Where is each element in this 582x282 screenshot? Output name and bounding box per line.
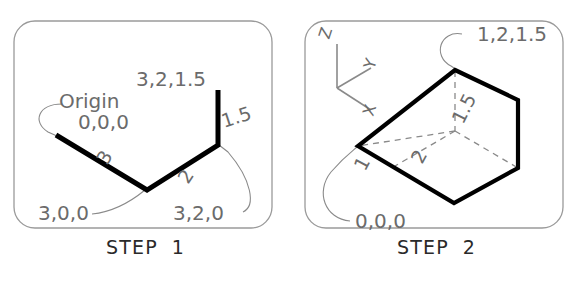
caption-step-1-word: STEP [106,236,158,258]
axis-label-y: Y [359,56,380,72]
construction-line-to-right [455,131,518,168]
label-origin-coord: 0,0,0 [78,110,129,134]
label-point-x: 3,0,0 [38,201,89,225]
panel-step-1: Origin 0,0,0 3,2,1.5 3,0,0 3,2,0 3 2 1.5… [0,0,291,282]
panel-border [305,21,563,228]
axis-label-x: X [359,102,380,118]
caption-step-1-number: 1 [172,236,185,258]
caption-step-2-word: STEP [397,236,449,258]
axis-triad: Z Y X [315,25,381,118]
label-point-xy: 3,2,0 [173,201,224,225]
label-point-xyz: 3,2,1.5 [136,67,206,91]
caption-step-2-number: 2 [463,236,476,258]
dimension-label-z: 1.5 [447,90,480,127]
panel-step-2: Z Y X 1,2,1.5 0,0,0 1.5 2 1 [291,0,582,282]
axis-label-z: Z [315,25,336,41]
dimension-label-x: 3 [92,146,117,168]
dimension-label-x: 1 [349,153,374,174]
diagram-root: Origin 0,0,0 3,2,1.5 3,0,0 3,2,0 3 2 1.5… [0,0,582,282]
caption-step-1: STEP1 [0,236,291,258]
axis-line-y [337,68,371,88]
caption-step-2: STEP2 [291,236,582,258]
dimension-label-y: 2 [406,146,431,167]
label-origin-coord: 0,0,0 [355,209,406,233]
leader-line-far-corner [440,34,462,70]
wireframe-outline [358,70,518,203]
leader-line-point-x [92,190,145,214]
label-far-corner: 1,2,1.5 [477,22,547,46]
dimension-label-z: 1.5 [218,102,254,132]
